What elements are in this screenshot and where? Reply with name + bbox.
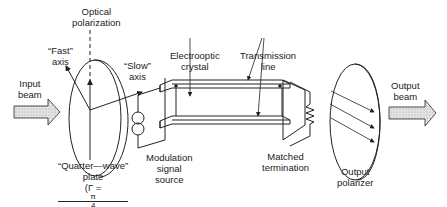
- label-line: Matched: [262, 151, 309, 162]
- output-polarizer-label: Output polarizer: [337, 166, 373, 188]
- label-line: axis: [124, 71, 151, 82]
- modulation-signal-source-label: Modulation signal source: [146, 152, 192, 185]
- label-line: beam: [391, 91, 420, 102]
- label-line: Output: [391, 80, 420, 91]
- transmission-line-label: Transmission line: [240, 50, 296, 72]
- label-line: polarization: [72, 17, 121, 28]
- label-line: Transmission: [240, 50, 296, 61]
- output-beam-arrow: [389, 100, 436, 126]
- matched-termination: [290, 82, 314, 146]
- label-line: Electrooptic: [170, 50, 220, 61]
- label-line: Optical: [72, 6, 121, 17]
- electrooptic-crystal-label: Electrooptic crystal: [170, 50, 220, 72]
- label-line: line: [240, 61, 296, 72]
- label-line: source: [146, 174, 192, 185]
- label-line: Modulation: [146, 152, 192, 163]
- label-line: “Quarter—wave”: [58, 160, 128, 171]
- input-beam-label: Input beam: [18, 78, 42, 100]
- optical-polarization-label: Optical polarization: [72, 6, 121, 28]
- label-line: “Fast”: [48, 45, 73, 56]
- electrooptic-crystal: [160, 78, 305, 140]
- modulation-signal-source: [132, 88, 165, 148]
- denominator: 4: [58, 202, 128, 207]
- slow-axis-arrow: [90, 92, 142, 110]
- label-line: termination: [262, 162, 309, 173]
- matched-termination-label: Matched termination: [262, 151, 309, 173]
- input-beam-arrow: [14, 99, 60, 125]
- pi-over-4: π4: [58, 193, 128, 207]
- label-line: crystal: [170, 61, 220, 72]
- label-line: Input: [18, 78, 42, 89]
- quarter-wave-plate-label: “Quarter—wave” plate (Γ = π4): [58, 160, 128, 207]
- slow-axis-label: “Slow” axis: [124, 60, 151, 82]
- retardation-formula: (Γ = π4): [58, 182, 128, 207]
- label-line: “Slow”: [124, 60, 151, 71]
- label-line: Output: [337, 166, 373, 177]
- fast-axis-label: “Fast” axis: [48, 45, 73, 67]
- output-beam-label: Output beam: [391, 80, 420, 102]
- label-line: axis: [48, 56, 73, 67]
- label-line: polarizer: [337, 177, 373, 188]
- label-line: beam: [18, 89, 42, 100]
- label-line: signal: [146, 163, 192, 174]
- label-line: plate: [58, 171, 128, 182]
